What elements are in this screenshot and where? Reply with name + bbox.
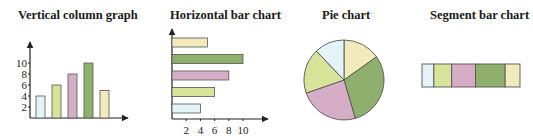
x-tick-label: 10 [238,124,250,136]
column-bar [52,85,61,118]
column-bar [36,96,45,118]
column-bar [84,63,93,118]
horizontal-bar [172,104,200,113]
column-bar [100,91,109,119]
y-tick-label: 2 [22,101,28,113]
horizontal-bar [172,55,243,64]
y-tick-label: 8 [22,68,28,80]
segment [475,64,505,87]
charts-canvas: 246810 246810 [0,0,533,140]
horizontal-bar [172,38,208,47]
segment [505,64,520,87]
horizontal-bar [172,71,229,80]
y-tick-label: 10 [16,57,28,69]
x-tick-label: 8 [226,124,232,136]
vertical-column-graph: 246810 [16,42,128,118]
x-tick-label: 2 [183,124,189,136]
x-tick-label: 6 [212,124,218,136]
segment [452,64,476,87]
horizontal-bar [172,88,215,97]
horizontal-bar-chart: 246810 [172,29,268,136]
segment [422,64,434,87]
y-tick-label: 4 [22,90,28,102]
y-tick-label: 6 [22,79,28,91]
x-tick-label: 4 [198,124,204,136]
segment-bar-chart [422,64,520,87]
column-bar [68,74,77,118]
segment [434,64,452,87]
pie-chart [304,40,384,120]
